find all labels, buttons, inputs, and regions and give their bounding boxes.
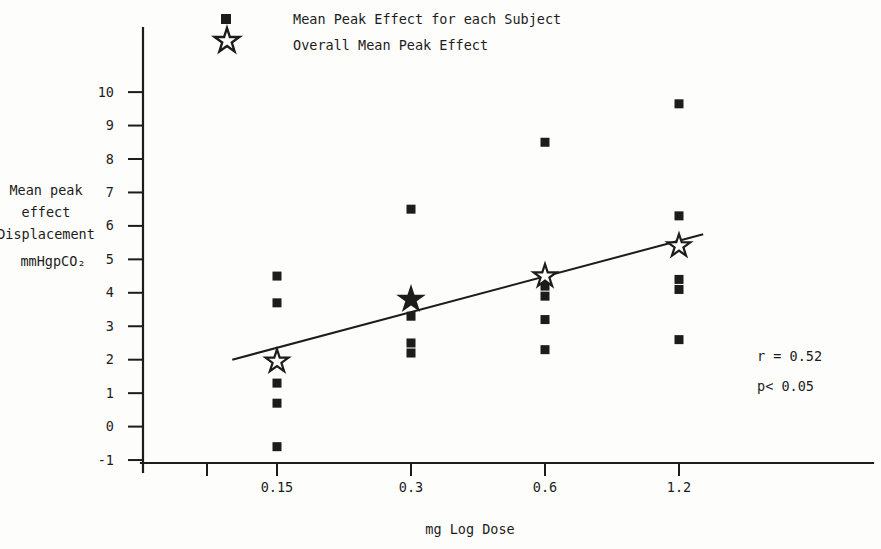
data-point-square	[675, 99, 684, 108]
data-point-square	[675, 275, 684, 284]
axis-titles: mg Log Dose Mean peak effect Displacemen…	[0, 182, 515, 537]
y-tick-label: 4	[106, 284, 114, 300]
y-tick-label: -1	[98, 452, 114, 468]
y-axis-label-line-2: effect	[22, 204, 71, 220]
legend-square-icon	[221, 14, 231, 24]
data-point-square	[273, 272, 282, 281]
regression-line-group	[232, 234, 703, 359]
data-point-square	[541, 138, 550, 147]
legend-label-subjects: Mean Peak Effect for each Subject	[293, 11, 561, 27]
y-tick-label: 7	[106, 184, 114, 200]
y-axis-label-line-1: Mean peak	[9, 182, 82, 198]
y-tick-label: 2	[106, 351, 114, 367]
r-value-annotation: r = 0.52	[757, 348, 822, 364]
data-point-square	[675, 335, 684, 344]
data-point-square	[407, 349, 416, 358]
y-tick-label: 0	[106, 418, 114, 434]
legend-star-icon	[215, 28, 240, 52]
y-tick-label: 5	[106, 251, 114, 267]
data-point-square	[407, 312, 416, 321]
figure-root: 109876543210-10.150.30.61.2 Mean Peak Ef…	[0, 0, 881, 549]
mean-star-open	[266, 349, 289, 371]
x-tick-label: 0.3	[399, 479, 423, 495]
x-tick-label: 0.6	[533, 479, 557, 495]
regression-line	[232, 234, 703, 359]
data-point-square	[273, 442, 282, 451]
data-point-square	[541, 292, 550, 301]
y-tick-label: 3	[106, 318, 114, 334]
data-point-square	[273, 399, 282, 408]
data-point-square	[407, 338, 416, 347]
x-axis-title: mg Log Dose	[425, 521, 514, 537]
y-tick-label: 1	[106, 385, 114, 401]
scatter-plot: 109876543210-10.150.30.61.2 Mean Peak Ef…	[0, 0, 881, 549]
y-tick-label: 8	[106, 151, 114, 167]
data-point-square	[675, 285, 684, 294]
data-point-square	[675, 211, 684, 220]
mean-star-open	[668, 234, 691, 256]
stats-annotations: r = 0.52 p< 0.05	[757, 348, 822, 394]
y-tick-label: 10	[98, 84, 114, 100]
data-point-square	[541, 315, 550, 324]
subject-points-group	[273, 99, 684, 451]
p-value-annotation: p< 0.05	[757, 378, 814, 394]
legend-label-overall: Overall Mean Peak Effect	[293, 37, 488, 53]
y-tick-label: 9	[106, 117, 114, 133]
x-tick-label: 0.15	[261, 479, 294, 495]
mean-star-filled	[400, 288, 423, 310]
legend: Mean Peak Effect for each Subject Overal…	[215, 11, 562, 53]
data-point-square	[273, 298, 282, 307]
x-tick-label: 1.2	[667, 479, 691, 495]
data-point-square	[407, 205, 416, 214]
axes: 109876543210-10.150.30.61.2	[98, 28, 873, 495]
data-point-square	[541, 345, 550, 354]
data-point-square	[273, 379, 282, 388]
y-axis-label-line-3: Displacement	[0, 226, 95, 242]
y-axis-label-line-4: mmHgpCO₂	[20, 253, 85, 269]
y-tick-label: 6	[106, 217, 114, 233]
